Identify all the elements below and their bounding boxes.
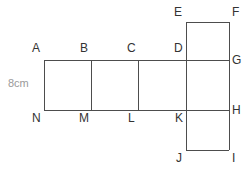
- vertex-label-k: K: [175, 112, 183, 124]
- vertex-label-c: C: [127, 42, 136, 54]
- edge-group: [44, 22, 229, 150]
- vertex-label-g: G: [232, 54, 241, 66]
- vertex-label-m: M: [79, 112, 89, 124]
- vertex-label-f: F: [232, 6, 239, 18]
- dimension-label-8cm: 8cm: [8, 78, 29, 89]
- net-diagram-svg: [0, 0, 250, 173]
- vertex-label-j: J: [176, 152, 182, 164]
- vertex-label-i: I: [232, 152, 235, 164]
- vertex-label-h: H: [232, 104, 241, 116]
- vertex-label-b: B: [80, 42, 88, 54]
- vertex-label-d: D: [174, 42, 183, 54]
- vertex-label-e: E: [174, 6, 182, 18]
- vertex-label-n: N: [32, 112, 41, 124]
- vertex-label-l: L: [128, 112, 135, 124]
- vertex-label-a: A: [32, 42, 40, 54]
- geometry-net-figure: ABCDEFGHIJKLMN 8cm: [0, 0, 250, 173]
